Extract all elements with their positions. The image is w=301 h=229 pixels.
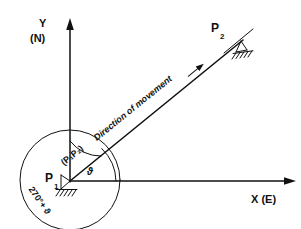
y-axis-sublabel: (N) (30, 32, 46, 44)
x-axis-label: X (E) (251, 193, 276, 205)
x-axis (70, 177, 296, 185)
p1-hatch-3 (64, 190, 68, 196)
p1-hatch-5 (72, 190, 76, 196)
direction-inline-arrow (186, 61, 205, 78)
bearing-label-group: (P₁P₂) (59, 143, 85, 167)
direction-of-movement-label: Direction of movement (92, 73, 175, 143)
p1-hatch-4 (68, 190, 72, 196)
survey-direction-diagram: Y (N) X (E) ϑ (P₁P₂) 270°+ ϑ Direction o… (0, 0, 301, 229)
p2-hatch-1 (232, 53, 236, 59)
y-axis-arrowhead-icon (66, 18, 74, 30)
p2-hatch-5 (248, 51, 252, 57)
p1-support-upper-edge (61, 175, 70, 181)
azimuth-label-group: 270°+ ϑ (27, 185, 54, 217)
p1-hatch-2 (60, 190, 64, 196)
p1-label: P (45, 171, 53, 185)
x-axis-arrowhead-icon (284, 177, 296, 185)
diagram-canvas: Y (N) X (E) ϑ (P₁P₂) 270°+ ϑ Direction o… (0, 0, 301, 229)
p2-ground-line (224, 29, 253, 53)
bearing-label: (P₁P₂) (59, 143, 85, 167)
p1-p2-ray (70, 40, 243, 181)
direction-text-group: Direction of movement (92, 73, 175, 143)
azimuth-label: 270°+ ϑ (27, 185, 54, 217)
y-axis-label: Y (39, 17, 47, 29)
p2-subscript: 2 (220, 32, 225, 41)
p2-support-right-edge (241, 41, 247, 50)
theta-angle-label: ϑ (86, 166, 94, 177)
p1-support-lower-edge (61, 181, 70, 189)
p2-label: P (211, 21, 219, 35)
